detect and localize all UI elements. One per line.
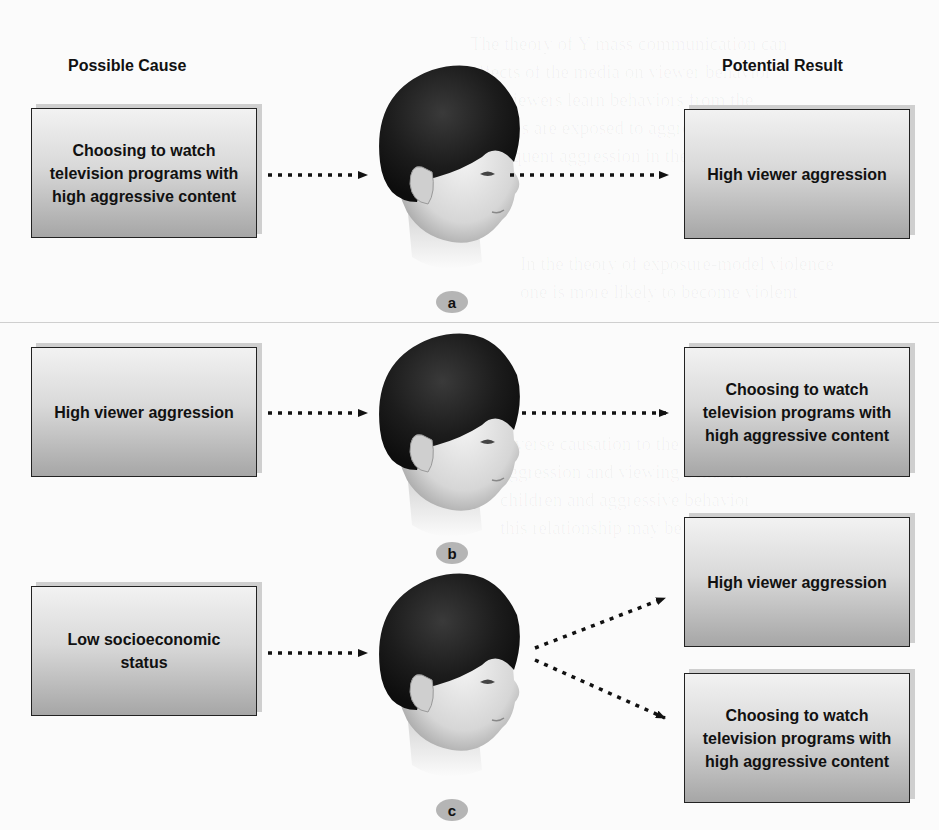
panel-a-cause-box: Choosing to watch television programs wi…: [31, 108, 257, 238]
background-bleed-text: In the theory of exposure-model violence…: [520, 250, 834, 306]
panel-c-result-box-tv: Choosing to watch television programs wi…: [684, 673, 910, 803]
panel-b-result-box: Choosing to watch television programs wi…: [684, 347, 910, 477]
panel-label-c: c: [436, 799, 468, 821]
panel-b-result-text: Choosing to watch television programs wi…: [695, 378, 899, 447]
head-illustration-b: [352, 320, 532, 540]
panel-c-result-box-aggression: High viewer aggression: [684, 517, 910, 647]
head-illustration-a: [352, 52, 532, 272]
panel-label-b: b: [436, 542, 468, 564]
arrow-c-head-to-result-aggression: [535, 598, 665, 648]
head-illustration-c: [352, 560, 532, 780]
arrow-c-head-to-result-tv: [535, 660, 665, 718]
panel-a-cause-text: Choosing to watch television programs wi…: [42, 139, 246, 208]
panel-b-cause-box: High viewer aggression: [31, 347, 257, 477]
heading-potential-result: Potential Result: [722, 57, 843, 75]
panel-c-result-text-aggression: High viewer aggression: [707, 571, 887, 594]
panel-label-a: a: [436, 291, 468, 313]
panel-c-cause-box: Low socioeconomic status: [31, 586, 257, 716]
panel-c-cause-text: Low socioeconomic status: [42, 628, 246, 674]
panel-b-cause-text: High viewer aggression: [54, 401, 234, 424]
panel-a-result-text: High viewer aggression: [707, 163, 887, 186]
panel-c-result-text-tv: Choosing to watch television programs wi…: [695, 704, 899, 773]
panel-a-result-box: High viewer aggression: [684, 109, 910, 239]
heading-possible-cause: Possible Cause: [68, 57, 186, 75]
